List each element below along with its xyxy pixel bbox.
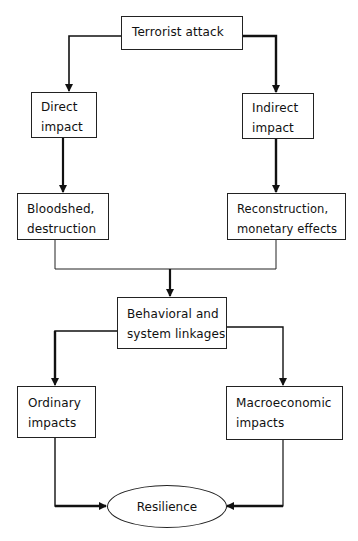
node-bloodshed-destruction: Bloodshed, destruction <box>17 193 109 240</box>
node-resilience: Resilience <box>107 485 227 528</box>
edge-macro-resilience <box>227 439 283 506</box>
edge-behavioral-ordinary <box>55 331 117 385</box>
edge-attack-direct <box>69 36 121 91</box>
edge-merge <box>55 239 276 269</box>
edge-attack-indirect <box>242 36 276 92</box>
connector-lines <box>0 0 358 541</box>
edge-ordinary-resilience <box>55 437 106 506</box>
node-indirect-impact: Indirect impact <box>242 93 314 139</box>
node-direct-impact: Direct impact <box>31 92 97 138</box>
node-behavioral-linkages: Behavioral and system linkages <box>117 297 227 349</box>
node-terrorist-attack: Terrorist attack <box>121 16 243 50</box>
node-ordinary-impacts: Ordinary impacts <box>17 386 96 438</box>
node-reconstruction-monetary: Reconstruction, monetary effects <box>227 193 346 240</box>
edge-behavioral-macro <box>226 327 283 385</box>
node-macroeconomic-impacts: Macroeconomic impacts <box>226 386 343 440</box>
